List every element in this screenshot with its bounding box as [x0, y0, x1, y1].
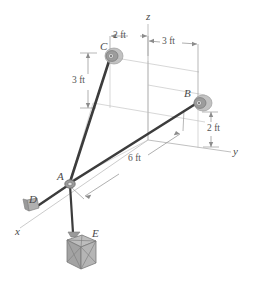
pulley-b: [194, 95, 212, 111]
figure-canvas: [0, 0, 255, 283]
axis-label-z: z: [146, 11, 150, 22]
axis-label-x: x: [15, 226, 20, 237]
pulley-c: [105, 48, 123, 64]
cable-ad: [36, 184, 70, 207]
point-label-e: E: [92, 228, 99, 239]
point-label-d: D: [29, 194, 37, 205]
cable-ab: [70, 103, 197, 183]
point-label-a: A: [57, 171, 64, 182]
axis-label-y: y: [233, 146, 238, 157]
ring-a: [65, 180, 75, 188]
dimension-label-c-to-z: 2 ft: [113, 31, 126, 41]
point-label-b: B: [184, 88, 191, 99]
dimension-label-c-height: 3 ft: [72, 76, 85, 86]
dimension-label-z-to-b: 3 ft: [162, 37, 175, 47]
y-axis-line: [148, 140, 231, 152]
dimension-label-a-to-b: 6 ft: [128, 154, 141, 164]
dimension-lines: [72, 34, 219, 199]
dimension-label-b-height: 2 ft: [207, 124, 220, 134]
statics-figure: z y x A B C D E 2 ft 3 ft 3 ft 2 ft 6 ft: [0, 0, 255, 283]
point-label-c: C: [100, 41, 107, 52]
cable-group: [36, 58, 197, 233]
